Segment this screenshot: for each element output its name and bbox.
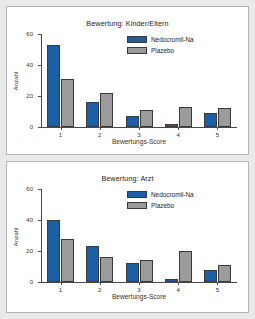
x-axis-tick-label: 5 xyxy=(216,286,219,293)
x-axis-tick xyxy=(139,282,140,285)
y-axis-tick: 60 xyxy=(38,34,41,35)
x-axis-tick-label: 1 xyxy=(59,131,62,138)
bar xyxy=(61,239,74,282)
legend-swatch-icon xyxy=(127,36,147,43)
bar-chart-kinder-eltern: Bewertung: Kinder/Eltern Anzahl 02040601… xyxy=(7,7,248,154)
bar xyxy=(86,102,99,127)
y-axis-tick-label: 40 xyxy=(26,217,33,223)
bar xyxy=(100,257,113,282)
bar xyxy=(126,116,139,127)
x-axis-tick xyxy=(178,127,179,130)
chart-panel-kinder-eltern: Bewertung: Kinder/Eltern Anzahl 02040601… xyxy=(6,6,249,155)
legend-label: Plazebo xyxy=(151,47,174,54)
legend-label: Nedocromil-Na xyxy=(151,191,194,198)
bar xyxy=(179,107,192,127)
x-axis-label: Bewertungs-Score xyxy=(41,293,237,300)
legend: Nedocromil-Na Plazebo xyxy=(127,189,194,211)
bar xyxy=(179,251,192,282)
y-axis-tick: 60 xyxy=(38,189,41,190)
x-axis-tick-label: 4 xyxy=(176,286,179,293)
x-axis-tick-label: 1 xyxy=(59,286,62,293)
y-axis-tick: 0 xyxy=(38,282,41,283)
x-axis-tick-label: 2 xyxy=(98,131,101,138)
bar xyxy=(140,260,153,282)
bar xyxy=(61,79,74,127)
chart-panel-arzt: Bewertung: Arzt Anzahl 020406012345 Bewe… xyxy=(6,161,249,313)
y-axis-line xyxy=(41,189,42,282)
bar xyxy=(204,270,217,282)
bar xyxy=(86,246,99,282)
x-axis-label: Bewertungs-Score xyxy=(41,138,237,145)
y-axis-line xyxy=(41,34,42,127)
legend-swatch-icon xyxy=(127,202,147,209)
y-axis-tick: 0 xyxy=(38,127,41,128)
bar xyxy=(165,124,178,127)
x-axis-tick xyxy=(100,127,101,130)
x-axis-tick xyxy=(139,127,140,130)
y-axis-tick-label: 0 xyxy=(30,279,33,285)
legend-label: Nedocromil-Na xyxy=(151,36,194,43)
legend: Nedocromil-Na Plazebo xyxy=(127,34,194,56)
x-axis-tick-label: 3 xyxy=(137,286,140,293)
bar-chart-arzt: Bewertung: Arzt Anzahl 020406012345 Bewe… xyxy=(7,162,248,312)
x-axis-tick xyxy=(61,282,62,285)
x-axis-tick-label: 4 xyxy=(176,131,179,138)
bar xyxy=(165,279,178,282)
y-axis-tick: 20 xyxy=(38,251,41,252)
x-axis-tick xyxy=(61,127,62,130)
bar xyxy=(47,45,60,127)
x-axis-tick-label: 3 xyxy=(137,131,140,138)
bar xyxy=(218,108,231,127)
y-axis-label: Anzahl xyxy=(12,71,19,90)
bar xyxy=(140,110,153,127)
y-axis-tick-label: 60 xyxy=(26,31,33,37)
legend-item: Nedocromil-Na xyxy=(127,189,194,199)
y-axis-tick: 40 xyxy=(38,220,41,221)
x-axis-tick-label: 5 xyxy=(216,131,219,138)
y-axis-label: Anzahl xyxy=(12,228,19,247)
chart-title: Bewertung: Kinder/Eltern xyxy=(7,19,248,28)
y-axis-tick-label: 0 xyxy=(30,124,33,130)
chart-title: Bewertung: Arzt xyxy=(7,174,248,183)
bar xyxy=(47,220,60,282)
legend-item: Plazebo xyxy=(127,45,194,55)
legend-item: Plazebo xyxy=(127,200,194,210)
y-axis-tick-label: 40 xyxy=(26,62,33,68)
bar xyxy=(126,263,139,282)
bar xyxy=(204,113,217,127)
y-axis-tick-label: 20 xyxy=(26,93,33,99)
x-axis-tick xyxy=(100,282,101,285)
figure-container: Bewertung: Kinder/Eltern Anzahl 02040601… xyxy=(0,0,255,319)
x-axis-tick-label: 2 xyxy=(98,286,101,293)
legend-label: Plazebo xyxy=(151,202,174,209)
y-axis-tick-label: 60 xyxy=(26,186,33,192)
x-axis-tick xyxy=(178,282,179,285)
y-axis-tick: 40 xyxy=(38,65,41,66)
x-axis-tick xyxy=(217,127,218,130)
legend-swatch-icon xyxy=(127,47,147,54)
legend-item: Nedocromil-Na xyxy=(127,34,194,44)
bar xyxy=(218,265,231,282)
y-axis-tick: 20 xyxy=(38,96,41,97)
bar xyxy=(100,93,113,127)
x-axis-tick xyxy=(217,282,218,285)
y-axis-tick-label: 20 xyxy=(26,248,33,254)
legend-swatch-icon xyxy=(127,191,147,198)
